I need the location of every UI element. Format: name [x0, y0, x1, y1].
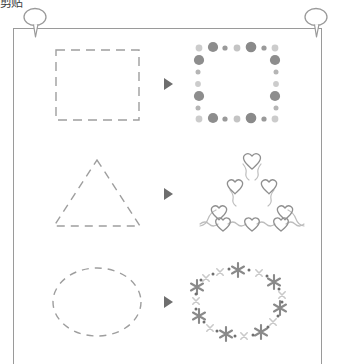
arrow-ellipse: [153, 246, 183, 358]
dot-brush-square: [183, 28, 322, 140]
heart-brush-triangle: [183, 138, 322, 250]
arrow-square: [153, 28, 183, 140]
row-square: [13, 28, 322, 140]
row-triangle: [13, 138, 322, 250]
play-arrow-icon: [164, 188, 173, 200]
source-dashed-square: [13, 28, 153, 140]
source-dashed-ellipse: [13, 246, 153, 358]
arrow-triangle: [153, 138, 183, 250]
result-dotted-square: [183, 28, 322, 140]
play-arrow-icon: [164, 78, 173, 90]
play-arrow-icon: [164, 296, 173, 308]
shape-rows: [13, 28, 322, 364]
result-heart-triangle: [183, 138, 322, 250]
source-dashed-triangle: [13, 138, 153, 250]
row-ellipse: [13, 246, 322, 358]
result-star-ellipse: [183, 246, 322, 358]
star-brush-ellipse: [183, 246, 322, 358]
